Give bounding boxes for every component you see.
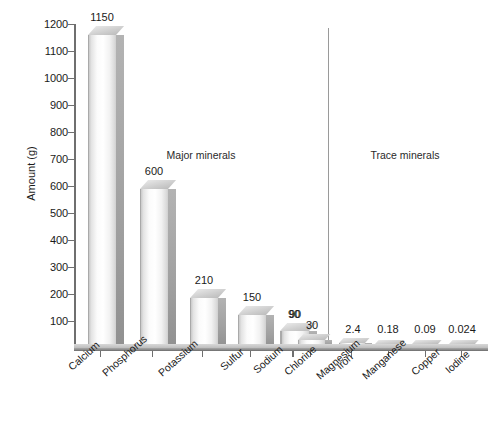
mineral-amount-bar-chart: Amount (g) 1200 1100 1000 900 800 700 60…	[0, 0, 492, 422]
y-tick-label: 200	[26, 289, 68, 300]
y-tick-label: 400	[26, 235, 68, 246]
y-axis-line	[74, 24, 76, 351]
y-tick-label: 1000	[26, 73, 68, 84]
bar-phosphorus	[140, 180, 168, 348]
y-tick-label: 700	[26, 154, 68, 165]
bar-side-face	[168, 189, 176, 348]
bar-value-phosphorus: 600	[130, 166, 178, 177]
y-tick-group: 1100	[20, 46, 68, 57]
y-tick-label: 500	[26, 208, 68, 219]
y-tick-label: 1100	[26, 46, 68, 57]
x-tick-mark	[100, 351, 101, 357]
bar-top-face	[238, 306, 274, 315]
y-tick-label: 100	[26, 316, 68, 327]
y-tick-group: 900	[20, 100, 68, 111]
y-tick-mark	[68, 132, 75, 133]
y-tick-mark	[68, 213, 75, 214]
y-tick-mark	[68, 159, 75, 160]
x-tick-mark	[202, 351, 203, 357]
y-tick-label: 800	[26, 127, 68, 138]
bar-calcium	[88, 26, 116, 348]
y-tick-mark	[68, 105, 75, 106]
y-tick-group: 600	[20, 181, 68, 192]
y-tick-mark	[68, 267, 75, 268]
y-tick-group: 1200	[20, 19, 68, 30]
bar-top-face	[140, 180, 176, 189]
y-tick-group: 300	[20, 262, 68, 273]
bar-sulfur	[238, 306, 266, 348]
y-tick-mark	[68, 240, 75, 241]
y-tick-mark	[68, 294, 75, 295]
bar-side-face	[116, 35, 124, 348]
bar-top-face	[88, 26, 124, 35]
y-tick-label: 300	[26, 262, 68, 273]
x-tick-mark	[250, 351, 251, 357]
major-minerals-caption: Major minerals	[131, 150, 271, 161]
x-tick-mark	[152, 351, 153, 357]
y-tick-group: 100	[20, 316, 68, 327]
y-tick-mark	[68, 24, 75, 25]
trace-minerals-caption: Trace minerals	[340, 150, 470, 161]
y-tick-label: 600	[26, 181, 68, 192]
y-tick-group: 1000	[20, 73, 68, 84]
y-tick-group: 200	[20, 289, 68, 300]
bar-value-potassium: 210	[180, 275, 228, 286]
y-tick-mark	[68, 51, 75, 52]
y-axis-title: Amount (g)	[26, 134, 37, 214]
section-divider	[328, 28, 329, 348]
y-tick-label: 900	[26, 100, 68, 111]
bar-front-face	[140, 189, 168, 348]
y-tick-group: 700	[20, 154, 68, 165]
y-tick-mark	[68, 186, 75, 187]
y-tick-mark	[68, 78, 75, 79]
y-tick-label: 1200	[26, 19, 68, 30]
y-tick-mark	[68, 321, 75, 322]
bar-front-face	[88, 35, 116, 348]
bar-value-iodine: 0.024	[435, 324, 489, 335]
y-tick-group: 500	[20, 208, 68, 219]
bar-value-sulfur: 150	[228, 292, 276, 303]
bar-top-face	[190, 289, 226, 298]
bar-side-face	[218, 298, 226, 348]
x-label-iodine: Iodine	[443, 348, 471, 375]
y-tick-group: 400	[20, 235, 68, 246]
bar-value-calcium: 1150	[78, 12, 126, 23]
y-tick-group: 800	[20, 127, 68, 138]
